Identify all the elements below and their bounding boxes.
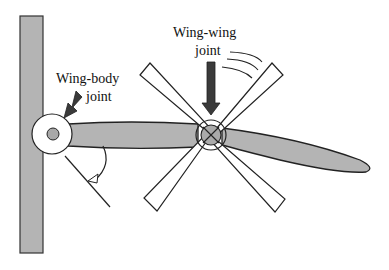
wing-body-joint (32, 114, 72, 154)
wing-wing-joint (196, 120, 226, 150)
wing-body-arrow-icon (64, 91, 82, 118)
motion-lines-icon (222, 52, 262, 78)
wing-wing-arrow-icon (202, 62, 220, 115)
wing-wing-label-line1: Wing-wing (173, 25, 236, 40)
joint-diagram: Wing-body joint Wing-wing joint (0, 0, 389, 270)
inner-wing (68, 122, 198, 148)
wing-body-label-line2: joint (85, 89, 112, 104)
wing-body-label-line1: Wing-body (56, 71, 119, 86)
angle-indicator (65, 146, 110, 207)
wing-wing-label-line2: joint (194, 43, 221, 58)
angle-arrowhead-icon (88, 174, 98, 183)
